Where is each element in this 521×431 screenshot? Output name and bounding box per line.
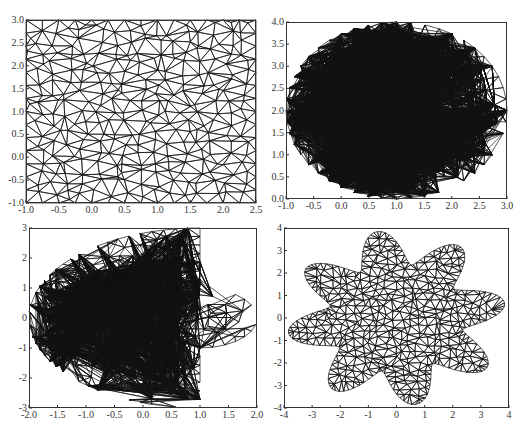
- y-tick-label: 3: [258, 246, 282, 256]
- y-tick-label: 0.0: [0, 152, 24, 162]
- y-tick-label: 2: [258, 268, 282, 278]
- x-tick-label: 1.0: [142, 205, 172, 215]
- y-tick-label: 4: [258, 223, 282, 233]
- y-tick-label: 4.0: [260, 17, 284, 27]
- x-tick-label: -0.5: [299, 201, 329, 211]
- y-tick-label: 1.5: [0, 84, 24, 94]
- mesh-triangles: [289, 232, 505, 405]
- y-tick-label: 2.5: [0, 38, 24, 48]
- y-tick-label: 0: [258, 313, 282, 323]
- x-tick-label: -1.0: [71, 410, 101, 420]
- x-tick-label: 3: [466, 410, 496, 420]
- x-tick-label: 2.0: [437, 201, 467, 211]
- y-tick-label: 2.0: [0, 61, 24, 71]
- y-tick-label: 0.0: [260, 194, 284, 204]
- y-tick-label: -2: [3, 373, 27, 383]
- y-tick-label: 3.0: [0, 15, 24, 25]
- x-tick-label: 0.0: [326, 201, 356, 211]
- axes-frame: [27, 21, 256, 203]
- x-tick-label: -1: [353, 410, 383, 420]
- plot-rectangle-mesh: -1.0-0.50.00.51.01.52.02.5-1.0-0.50.00.5…: [26, 20, 256, 203]
- y-tick-label: 1.0: [260, 150, 284, 160]
- y-tick-label: 2.0: [260, 106, 284, 116]
- y-tick-label: 1.0: [0, 107, 24, 117]
- plot-ellipse-mesh: -1.0-0.50.00.51.01.52.02.53.00.00.51.01.…: [286, 22, 507, 199]
- x-tick-label: 1.0: [382, 201, 412, 211]
- x-tick-label: -0.5: [100, 410, 130, 420]
- x-tick-label: -2: [325, 410, 355, 420]
- y-tick-label: -1: [258, 336, 282, 346]
- y-tick-label: -2: [258, 358, 282, 368]
- mesh-triangles: [29, 228, 255, 407]
- y-tick-label: 1: [258, 291, 282, 301]
- y-tick-label: -4: [258, 403, 282, 413]
- x-tick-label: 1: [410, 410, 440, 420]
- x-tick-label: 1.5: [175, 205, 205, 215]
- y-tick-label: -3: [3, 403, 27, 413]
- x-tick-label: 2.5: [241, 205, 271, 215]
- plot-star-mesh: -4-3-2-101234-4-3-2-101234: [284, 228, 509, 408]
- y-tick-label: 0: [3, 313, 27, 323]
- y-tick-label: -1.0: [0, 198, 24, 208]
- x-tick-label: 0.5: [110, 205, 140, 215]
- x-tick-label: 4: [494, 410, 521, 420]
- x-tick-label: 0.0: [128, 410, 158, 420]
- x-tick-label: 0.0: [77, 205, 107, 215]
- x-tick-label: -0.5: [44, 205, 74, 215]
- y-tick-label: 2: [3, 253, 27, 263]
- plot-half-ellipse-mesh: -2.0-1.5-1.0-0.50.00.51.01.52.0-3-2-1012…: [29, 228, 257, 408]
- mesh-canvas: [26, 20, 256, 203]
- y-tick-label: 0.5: [260, 172, 284, 182]
- x-tick-label: 2.5: [464, 201, 494, 211]
- x-tick-label: 3.0: [492, 201, 521, 211]
- x-tick-label: 0: [382, 410, 412, 420]
- mesh-triangles: [286, 22, 507, 199]
- x-tick-label: -3: [297, 410, 327, 420]
- y-tick-label: 3: [3, 223, 27, 233]
- x-tick-label: 1.0: [185, 410, 215, 420]
- x-tick-label: 2: [438, 410, 468, 420]
- y-tick-label: 3.0: [260, 61, 284, 71]
- x-tick-label: 1.5: [214, 410, 244, 420]
- x-tick-label: 1.5: [409, 201, 439, 211]
- mesh-canvas: [286, 22, 507, 199]
- y-tick-label: -0.5: [0, 175, 24, 185]
- y-tick-label: 2.5: [260, 83, 284, 93]
- y-tick-label: 1.5: [260, 128, 284, 138]
- x-tick-label: -1.5: [43, 410, 73, 420]
- mesh-triangles: [26, 20, 256, 203]
- y-tick-label: -3: [258, 381, 282, 391]
- mesh-canvas: [29, 228, 257, 408]
- y-tick-label: 0.5: [0, 129, 24, 139]
- mesh-canvas: [284, 228, 509, 408]
- y-tick-label: -1: [3, 343, 27, 353]
- x-tick-label: 0.5: [354, 201, 384, 211]
- y-tick-label: 1: [3, 283, 27, 293]
- x-tick-label: 0.5: [157, 410, 187, 420]
- y-tick-label: 3.5: [260, 39, 284, 49]
- x-tick-label: 2.0: [208, 205, 238, 215]
